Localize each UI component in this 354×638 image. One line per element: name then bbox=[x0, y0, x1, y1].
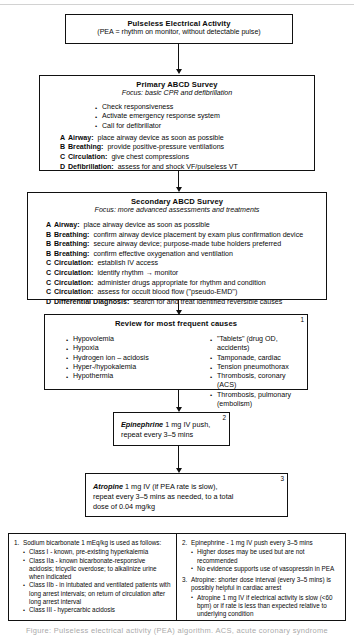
footnote-text: Epinephrine - 1 mg IV push every 3–5 min… bbox=[191, 539, 313, 546]
step-text: Breathing: secure airway device; purpose… bbox=[54, 240, 319, 250]
list-item: Tamponade, cardiac bbox=[210, 354, 302, 363]
step-text: Circulation: assess for occult blood flo… bbox=[54, 288, 319, 298]
step-text: Airway: place airway device as soon as p… bbox=[54, 221, 319, 231]
causes-title: Review for most frequent causes bbox=[50, 319, 302, 328]
list-item: Hydrogen ion – acidosis bbox=[66, 354, 200, 363]
step-text: Circulation: identify rhythm → monitor bbox=[54, 269, 319, 279]
footnote-sublist: Atropine 1 mg IV if electrical activity … bbox=[191, 594, 340, 619]
step-letter: C bbox=[46, 259, 54, 269]
epinephrine-drug-name: Epinephrine bbox=[121, 420, 163, 429]
abcd-step-row: D Differential Diagnosis: search for and… bbox=[46, 298, 319, 308]
footnote-number: 2. bbox=[182, 539, 187, 547]
step-letter: C bbox=[60, 153, 68, 163]
node-epinephrine: 2 Epinephrine 1 mg IV push, repeat every… bbox=[113, 412, 230, 446]
primary-steps: A Airway: place airway device as soon as… bbox=[47, 134, 307, 172]
atropine-line3: dose of 0.04 mg/kg bbox=[93, 502, 281, 512]
abcd-step-row: C Circulation: identify rhythm → monitor bbox=[46, 269, 319, 279]
step-text: Circulation: administer drugs appropriat… bbox=[54, 279, 319, 289]
step-letter: C bbox=[46, 288, 54, 298]
list-item: Call for defibrillator bbox=[95, 122, 307, 131]
node-secondary-abcd-survey: Secondary ABCD Survey Focus: more advanc… bbox=[27, 192, 327, 300]
list-item: Hyper-/hypokalemia bbox=[66, 363, 200, 372]
step-text: Defibrillation: assess for and shock VF/… bbox=[68, 163, 307, 173]
footnote-item: 3. Atropine: shorter dose interval (ever… bbox=[182, 576, 340, 618]
step-text: Circulation: give chest compressions bbox=[68, 153, 307, 163]
abcd-step-row: B Breathing: provide positive-pressure v… bbox=[60, 143, 307, 153]
node-atropine: 3 Atropine 1 mg IV (if PEA rate is slow)… bbox=[85, 473, 288, 517]
footnote-text: Atropine: shorter dose interval (every 3… bbox=[191, 576, 331, 591]
secondary-title: Secondary ABCD Survey bbox=[35, 197, 319, 206]
footnotes-left-column: 1. Sodium bicarbonate 1 mEq/kg is used a… bbox=[9, 534, 177, 620]
causes-marker: 1 bbox=[300, 316, 304, 323]
abcd-step-row: A Airway: place airway device as soon as… bbox=[46, 221, 319, 231]
list-item: Activate emergency response system bbox=[95, 112, 307, 121]
page-top-rule bbox=[0, 4, 354, 5]
step-letter: B bbox=[46, 231, 54, 241]
step-text: Breathing: provide positive-pressure ven… bbox=[68, 143, 307, 153]
abcd-step-row: C Circulation: establish IV access bbox=[46, 259, 319, 269]
step-text: Differential Diagnosis: search for and t… bbox=[54, 298, 319, 308]
step-letter: D bbox=[46, 298, 54, 308]
step-letter: D bbox=[60, 163, 68, 173]
list-item: Thrombosis, coronary (ACS) bbox=[210, 372, 302, 391]
step-letter: B bbox=[60, 143, 68, 153]
abcd-step-row: D Defibrillation: assess for and shock V… bbox=[60, 163, 307, 173]
list-item: Hypovolemia bbox=[66, 335, 200, 344]
primary-bullet-list: Check responsiveness Activate emergency … bbox=[47, 103, 307, 131]
step-letter: B bbox=[46, 240, 54, 250]
arrow-causes-to-epinephrine bbox=[178, 390, 179, 407]
atropine-marker: 3 bbox=[280, 475, 284, 482]
step-letter: A bbox=[46, 221, 54, 231]
list-item: Higher doses may be used but are not rec… bbox=[191, 548, 340, 565]
node-review-frequent-causes: 1 Review for most frequent causes Hypovo… bbox=[44, 314, 308, 390]
footnote-list-right: 2. Epinephrine - 1 mg IV push every 3–5 … bbox=[182, 539, 340, 619]
node-primary-abcd-survey: Primary ABCD Survey Focus: basic CPR and… bbox=[39, 75, 315, 171]
abcd-step-row: B Breathing: confirm effective oxygenati… bbox=[46, 250, 319, 260]
epinephrine-marker: 2 bbox=[222, 414, 226, 421]
figure-caption: Figure: Pulseless electrical activity (P… bbox=[0, 624, 354, 638]
arrow-secondary-to-causes bbox=[178, 300, 179, 310]
footnote-item: 2. Epinephrine - 1 mg IV push every 3–5 … bbox=[182, 539, 340, 573]
abcd-step-row: B Breathing: secure airway device; purpo… bbox=[46, 240, 319, 250]
list-item: Thrombosis, pulmonary (embolism) bbox=[210, 391, 302, 410]
footnote-sublist: Higher doses may be used but are not rec… bbox=[191, 548, 340, 573]
list-item: Tension pneumothorax bbox=[210, 363, 302, 372]
footnote-number: 3. bbox=[182, 576, 187, 584]
abcd-step-row: C Circulation: administer drugs appropri… bbox=[46, 279, 319, 289]
step-text: Airway: place airway device as soon as p… bbox=[68, 134, 307, 144]
step-letter: A bbox=[60, 134, 68, 144]
arrow-epinephrine-to-atropine bbox=[178, 446, 179, 468]
footnote-list-left: 1. Sodium bicarbonate 1 mEq/kg is used a… bbox=[14, 539, 171, 615]
primary-subtitle: Focus: basic CPR and defibrillation bbox=[47, 89, 307, 98]
footnote-text: Sodium bicarbonate 1 mEq/kg is used as f… bbox=[23, 539, 161, 546]
abcd-step-row: A Airway: place airway device as soon as… bbox=[60, 134, 307, 144]
epinephrine-line1: Epinephrine 1 mg IV push, bbox=[121, 420, 223, 430]
list-item: Hypothermia bbox=[66, 372, 200, 381]
arrow-pea-to-primary bbox=[178, 44, 179, 69]
list-item: Class IIa - known bicarbonate-responsive… bbox=[23, 557, 171, 582]
secondary-subtitle: Focus: more advanced assessments and tre… bbox=[35, 206, 319, 215]
list-item: Class I - known, pre-existing hyperkalem… bbox=[23, 548, 171, 556]
arrow-primary-to-secondary bbox=[178, 171, 179, 187]
causes-right-column: "Tablets" (drug OD, accidents) Tamponade… bbox=[206, 335, 302, 409]
footnote-item: 1. Sodium bicarbonate 1 mEq/kg is used a… bbox=[14, 539, 171, 615]
step-text: Circulation: establish IV access bbox=[54, 259, 319, 269]
pea-subtitle: (PEA = rhythm on monitor, without detect… bbox=[70, 28, 288, 38]
step-text: Breathing: confirm airway device placeme… bbox=[54, 231, 319, 241]
list-item: Class IIb - in intubated and ventilated … bbox=[23, 581, 171, 606]
list-item: No evidence supports use of vasopressin … bbox=[191, 565, 340, 573]
primary-title: Primary ABCD Survey bbox=[47, 80, 307, 89]
atropine-drug-name: Atropine bbox=[93, 482, 123, 491]
list-item: Atropine 1 mg IV if electrical activity … bbox=[191, 594, 340, 619]
causes-columns: Hypovolemia Hypoxia Hydrogen ion – acido… bbox=[50, 335, 302, 409]
list-item: Hypoxia bbox=[66, 344, 200, 353]
step-text: Breathing: confirm effective oxygenation… bbox=[54, 250, 319, 260]
abcd-step-row: C Circulation: give chest compressions bbox=[60, 153, 307, 163]
flowchart-canvas: Pulseless Electrical Activity (PEA = rhy… bbox=[0, 0, 354, 638]
abcd-step-row: B Breathing: confirm airway device place… bbox=[46, 231, 319, 241]
node-pulseless-electrical-activity: Pulseless Electrical Activity (PEA = rhy… bbox=[65, 14, 293, 44]
footnote-sublist: Class I - known, pre-existing hyperkalem… bbox=[23, 548, 171, 614]
footnote-number: 1. bbox=[14, 539, 19, 547]
footnotes-right-column: 2. Epinephrine - 1 mg IV push every 3–5 … bbox=[177, 534, 345, 620]
list-item: Class III - hypercarbic acidosis bbox=[23, 606, 171, 614]
